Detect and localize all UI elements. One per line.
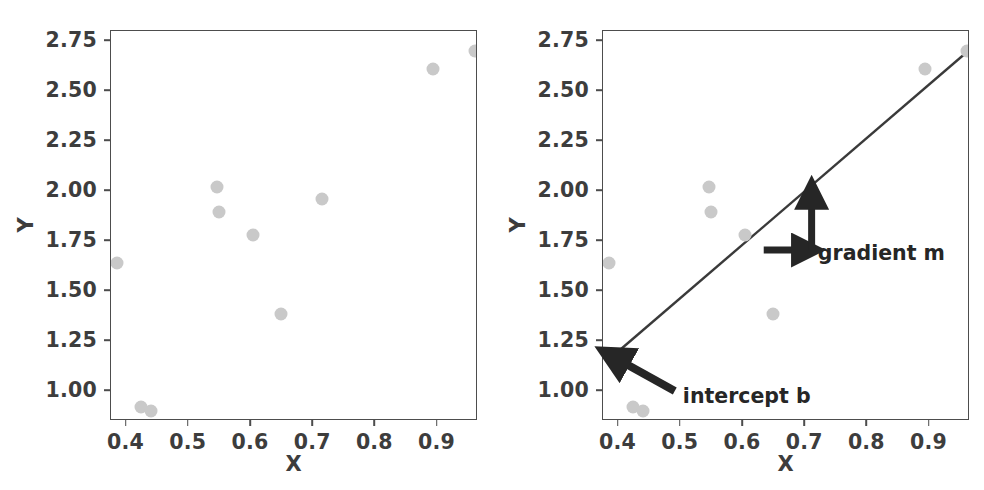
data-point <box>918 62 931 75</box>
y-tick-label: 1.00 <box>538 378 589 402</box>
data-point <box>315 192 328 205</box>
data-point <box>274 308 287 321</box>
y-tick-label: 2.50 <box>46 78 97 102</box>
data-point <box>213 206 226 219</box>
intercept-annotation-label: intercept b <box>683 384 811 408</box>
axes-left <box>110 30 477 420</box>
x-axis-label-right: X <box>602 452 969 476</box>
y-tick-mark <box>596 339 602 341</box>
y-tick-mark <box>104 189 110 191</box>
y-axis-label-left: Y <box>14 217 38 232</box>
y-tick-label: 1.50 <box>46 278 97 302</box>
data-point <box>705 206 718 219</box>
plot-area-right <box>603 31 968 419</box>
data-point <box>807 192 820 205</box>
data-point <box>766 308 779 321</box>
data-point <box>246 228 259 241</box>
y-tick-mark <box>104 339 110 341</box>
y-tick-label: 1.00 <box>46 378 97 402</box>
y-tick-label: 2.25 <box>46 128 97 152</box>
y-tick-mark <box>104 89 110 91</box>
data-point <box>426 62 439 75</box>
x-tick-label: 0.5 <box>661 430 698 454</box>
x-tick-mark <box>803 420 805 426</box>
regression-line-svg <box>603 31 968 419</box>
x-tick-label: 0.6 <box>723 430 760 454</box>
data-point <box>960 45 968 58</box>
data-point <box>111 257 124 270</box>
x-tick-label: 0.7 <box>294 430 331 454</box>
y-axis-label-right: Y <box>506 217 530 232</box>
x-tick-mark <box>741 420 743 426</box>
x-tick-label: 0.8 <box>848 430 885 454</box>
x-tick-mark <box>928 420 930 426</box>
x-tick-label: 0.6 <box>231 430 268 454</box>
y-tick-mark <box>104 139 110 141</box>
x-tick-mark <box>679 420 681 426</box>
y-tick-mark <box>596 389 602 391</box>
data-point <box>637 404 650 417</box>
y-tick-mark <box>104 289 110 291</box>
data-point <box>603 257 616 270</box>
scatter-regression-figure: Y X 1.001.251.501.752.002.252.502.750.40… <box>0 0 984 490</box>
regression-line <box>612 51 968 357</box>
y-tick-label: 2.75 <box>538 28 589 52</box>
data-point <box>145 404 158 417</box>
data-point <box>738 228 751 241</box>
x-tick-label: 0.8 <box>356 430 393 454</box>
x-tick-label: 0.5 <box>169 430 206 454</box>
y-tick-mark <box>104 389 110 391</box>
panel-scatter-with-fit: Y X 1.001.251.501.752.002.252.502.750.40… <box>492 0 984 490</box>
data-point <box>468 45 476 58</box>
x-tick-label: 0.4 <box>107 430 144 454</box>
x-tick-mark <box>374 420 376 426</box>
data-point <box>703 181 716 194</box>
axes-right <box>602 30 969 420</box>
x-tick-mark <box>617 420 619 426</box>
y-tick-label: 1.25 <box>46 328 97 352</box>
x-tick-label: 0.7 <box>786 430 823 454</box>
y-tick-label: 1.25 <box>538 328 589 352</box>
y-tick-label: 2.25 <box>538 128 589 152</box>
y-tick-mark <box>104 239 110 241</box>
y-tick-mark <box>596 189 602 191</box>
x-tick-mark <box>187 420 189 426</box>
x-tick-label: 0.9 <box>910 430 947 454</box>
y-tick-mark <box>596 39 602 41</box>
x-tick-mark <box>125 420 127 426</box>
y-tick-label: 1.50 <box>538 278 589 302</box>
x-tick-mark <box>311 420 313 426</box>
plot-area-left <box>111 31 476 419</box>
x-tick-label: 0.4 <box>599 430 636 454</box>
y-tick-label: 2.75 <box>46 28 97 52</box>
x-tick-mark <box>866 420 868 426</box>
y-tick-label: 2.00 <box>46 178 97 202</box>
y-tick-mark <box>596 139 602 141</box>
y-tick-label: 1.75 <box>538 228 589 252</box>
data-point <box>211 181 224 194</box>
y-tick-label: 2.50 <box>538 78 589 102</box>
y-tick-mark <box>596 239 602 241</box>
x-tick-label: 0.9 <box>418 430 455 454</box>
y-tick-label: 1.75 <box>46 228 97 252</box>
y-tick-mark <box>104 39 110 41</box>
x-tick-mark <box>249 420 251 426</box>
x-axis-label-left: X <box>110 452 477 476</box>
y-tick-mark <box>596 89 602 91</box>
gradient-annotation-label: gradient m <box>818 241 945 265</box>
x-tick-mark <box>436 420 438 426</box>
y-tick-label: 2.00 <box>538 178 589 202</box>
panel-scatter-only: Y X 1.001.251.501.752.002.252.502.750.40… <box>0 0 492 490</box>
y-tick-mark <box>596 289 602 291</box>
